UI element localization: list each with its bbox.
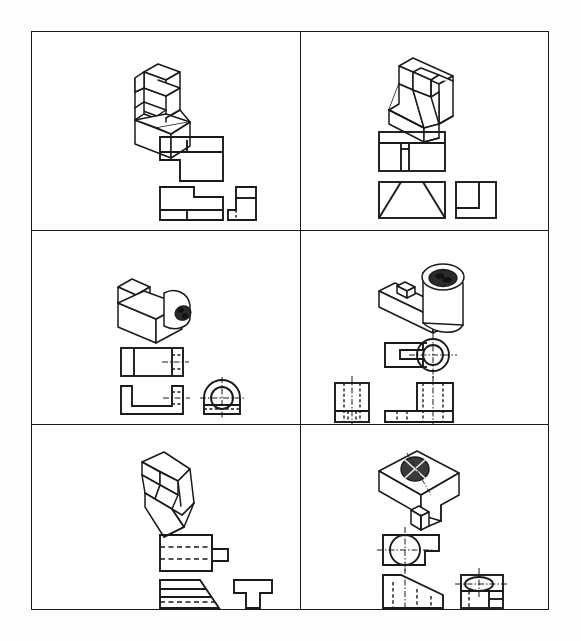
cell-6-side-view-center-lines: [455, 568, 509, 597]
cell-3-side-view-center-lines: [200, 377, 244, 418]
cell-5-top-view-hidden-lines: [160, 547, 212, 559]
cell-2-front-view: [379, 182, 445, 218]
cell-4-slotted-hub-problem[interactable]: [301, 231, 550, 424]
isometric-inclined-slotted-block: [379, 451, 459, 530]
cell-4-front-view-hidden-lines: [397, 383, 443, 422]
cell-6-front-view: [383, 575, 443, 608]
cell-2-side-view: [456, 182, 496, 218]
cell-1-stepped-block-problem[interactable]: [32, 32, 300, 230]
cell-3-drawing: [32, 231, 300, 424]
cell-4-drawing: [301, 231, 550, 424]
cell-5-front-view: [160, 580, 219, 608]
cell-5-angled-notched-block-problem[interactable]: [32, 425, 300, 609]
cell-6-top-view-center-lines: [377, 527, 433, 573]
isometric-bearing-bracket: [118, 279, 193, 343]
cell-5-top-view: [160, 535, 228, 571]
cell-5-side-view: [234, 580, 272, 608]
cell-1-drawing: [32, 32, 300, 230]
cell-2-drawing: [301, 32, 550, 230]
cell-6-inclined-slotted-block-problem[interactable]: [301, 425, 550, 609]
cell-5-drawing: [32, 425, 300, 609]
cell-2-angled-wedge-problem[interactable]: [301, 32, 550, 230]
cell-1-side-view: [228, 187, 256, 220]
isometric-angled-wedge-block: [389, 58, 453, 142]
isometric-slotted-hub: [379, 264, 464, 333]
worksheet-sheet: [0, 0, 581, 641]
cell-6-side-view: [461, 575, 503, 608]
cell-1-front-view: [160, 187, 223, 220]
problem-grid: [32, 32, 548, 609]
cell-3-bearing-bracket-problem[interactable]: [32, 231, 300, 424]
cell-6-drawing: [301, 425, 550, 609]
cell-3-front-view: [121, 386, 183, 414]
drawing-frame-border: [31, 31, 549, 610]
isometric-angled-notched-block: [142, 452, 194, 537]
isometric-stepped-block: [135, 64, 190, 158]
